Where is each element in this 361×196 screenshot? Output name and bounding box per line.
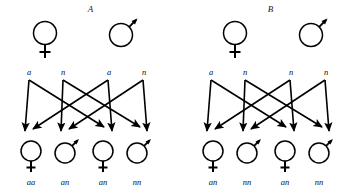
arrow-g0-o2 [29,80,104,127]
arrow-g3-o3 [143,80,147,131]
panel-a-parent-male [106,16,140,60]
panel-b-genotype-1: nn [234,178,260,187]
male-symbol [106,16,140,60]
female-symbol [218,18,252,62]
panel-b-offspring-1 [232,138,266,182]
panel-a-offspring-0 [14,138,48,182]
arrow-g0-o2 [211,80,286,127]
panel-a-genotype-2: an [90,178,116,187]
arrow-g2-o2 [290,80,294,131]
panel-a-genotype-0: aa [18,178,44,187]
arrow-g3-o1 [251,80,325,129]
panel-b: B a n n n [180,0,361,196]
arrow-g1-o1 [61,80,63,131]
panel-b-offspring-0 [196,138,230,182]
male-symbol [304,138,338,182]
arrow-g2-o2 [108,80,112,131]
male-symbol [296,16,330,60]
panel-a-genotype-3: nn [124,178,150,187]
panel-a-title: A [0,4,181,14]
arrow-g0-o0 [25,80,29,131]
arrow-g3-o3 [325,80,329,131]
panel-a-offspring-3 [122,138,156,182]
panel-b-gamete-label-1: n [236,68,254,77]
female-symbol [196,138,230,182]
male-symbol [232,138,266,182]
panel-b-parent-female [218,18,252,62]
panel-a-parent-female [28,18,62,62]
panel-b-gamete-label-3: n [317,68,335,77]
panel-a-gamete-label-1: n [54,68,72,77]
genetic-cross-diagram: A a n a n [0,0,361,196]
panel-a: A a n a n [0,0,181,196]
panel-b-parent-male [296,16,330,60]
arrow-g1-o3 [245,80,322,127]
male-symbol [122,138,156,182]
panel-a-gamete-label-0: a [20,68,38,77]
panel-a-offspring-1 [50,138,84,182]
male-symbol [50,138,84,182]
panel-b-title: B [180,4,361,14]
arrow-g1-o3 [63,80,140,127]
female-symbol [268,138,302,182]
panel-b-offspring-2 [268,138,302,182]
panel-b-genotype-2: an [272,178,298,187]
arrow-g2-o0 [33,80,108,129]
panel-b-offspring-3 [304,138,338,182]
female-symbol [86,138,120,182]
panel-b-genotype-0: an [200,178,226,187]
panel-b-genotype-3: nn [306,178,332,187]
panel-a-offspring-2 [86,138,120,182]
arrow-g0-o0 [207,80,211,131]
arrow-g1-o1 [243,80,245,131]
panel-a-genotype-1: an [52,178,78,187]
female-symbol [14,138,48,182]
arrow-g3-o1 [69,80,143,129]
panel-b-gamete-label-0: a [202,68,220,77]
arrow-g2-o0 [215,80,290,129]
female-symbol [28,18,62,62]
panel-a-gamete-label-2: a [100,68,118,77]
panel-b-gamete-label-2: n [282,68,300,77]
panel-a-gamete-label-3: n [135,68,153,77]
